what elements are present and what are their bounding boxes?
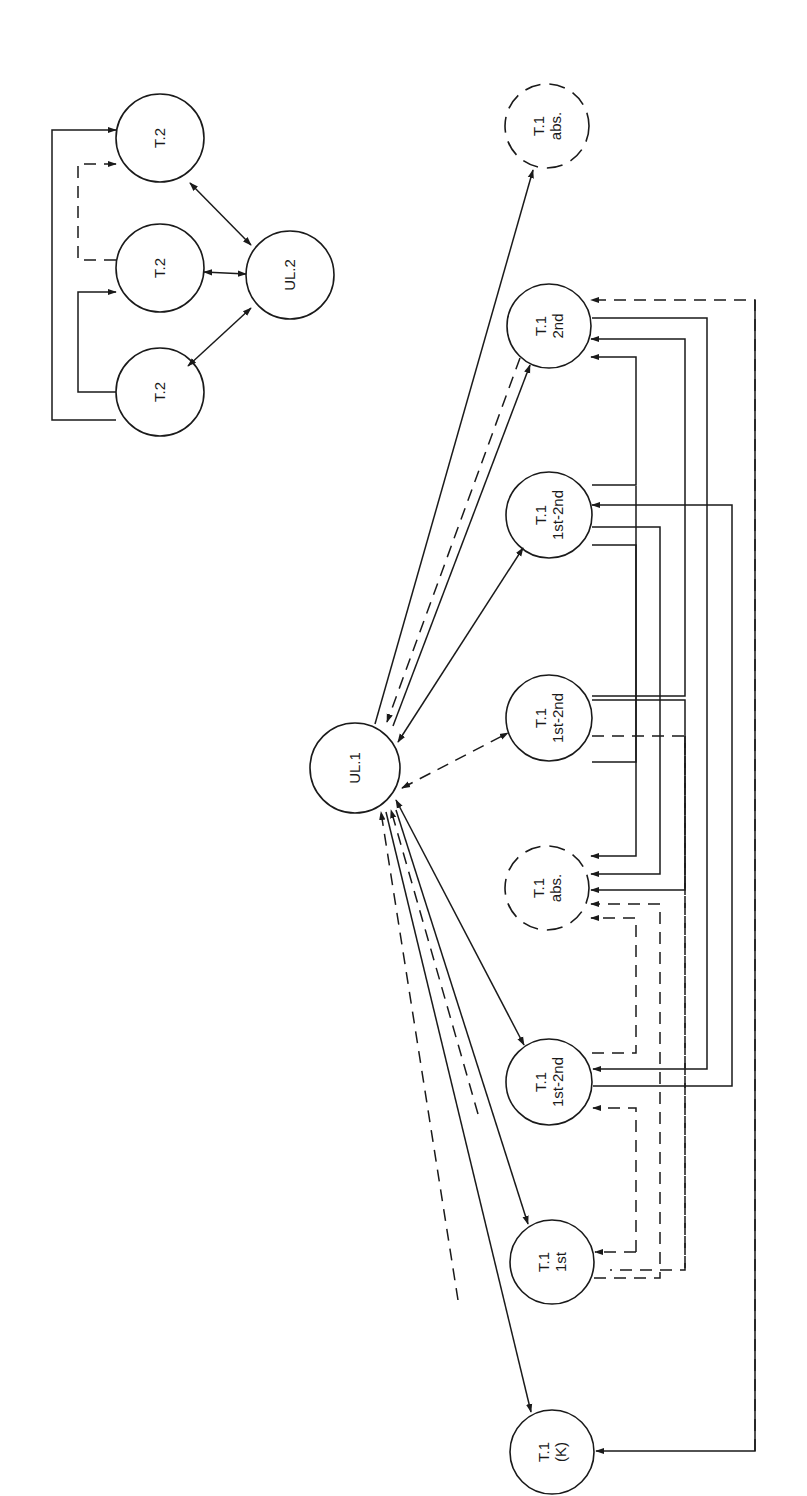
right-bus-connectors — [591, 300, 755, 1451]
node-t2a: T.2 — [116, 94, 204, 182]
edge-t1-12b-to-t1-abs — [591, 700, 685, 890]
edge-ul1-t1-1st — [396, 810, 528, 1224]
node-label: T.1abs. — [530, 874, 564, 902]
network-diagram: T.2T.2T.2UL.2UL.1T.1abs.T.12ndT.11st-2nd… — [0, 0, 807, 1496]
node-t1_k: T.1(K) — [510, 1410, 594, 1494]
node-label-line: T.1 — [535, 1252, 552, 1272]
edge-t1-2nd-to-ul1 — [387, 358, 520, 722]
edge-ul1-t1abs-top — [375, 170, 533, 724]
edge-ul2-t2c — [188, 308, 251, 366]
edge-ul1-t1-12b — [402, 733, 508, 788]
node-t1_12a: T.11st-2nd — [506, 472, 592, 558]
node-label: UL.2 — [281, 259, 298, 291]
edge-t1-2nd-to-t1-12c — [592, 318, 707, 1069]
node-label: T.11st-2nd — [532, 490, 566, 540]
edge-t1-12c-to-t1-12a — [592, 505, 732, 1086]
node-label-line: T.1 — [532, 1072, 549, 1092]
node-label-line: UL.2 — [281, 259, 298, 291]
edge-t1-12b-to-t1-12c — [592, 736, 685, 1270]
node-label-line: T.1 — [532, 505, 549, 525]
edge-t1-1st-to-t1-abs — [591, 904, 660, 1278]
node-label-line: T.2 — [151, 382, 168, 402]
node-t1abs_mid: T.1abs. — [505, 846, 589, 930]
node-label-line: 1st-2nd — [549, 693, 566, 743]
ul1-spokes — [375, 170, 533, 1412]
edge-t2c-to-t2b — [78, 292, 116, 392]
edge-t1-12b-to-t1-2nd — [591, 339, 685, 696]
node-label-line: T.1 — [530, 116, 547, 136]
node-label: T.2 — [151, 258, 168, 278]
node-label-line: T.1 — [532, 708, 549, 728]
node-label: T.11st-2nd — [532, 693, 566, 743]
node-label-line: UL.1 — [346, 752, 363, 784]
node-ul1: UL.1 — [310, 723, 400, 813]
nodes: T.2T.2T.2UL.2UL.1T.1abs.T.12ndT.11st-2nd… — [116, 84, 594, 1494]
node-t2b: T.2 — [116, 224, 204, 312]
edge-ul1-t1-12c — [396, 800, 524, 1045]
node-label-line: 1st-2nd — [549, 490, 566, 540]
edge-ul2-t2b — [204, 272, 246, 274]
node-t1abs_top: T.1abs. — [505, 84, 589, 168]
node-t1_12b: T.11st-2nd — [506, 675, 592, 761]
node-label: T.1abs. — [530, 112, 564, 140]
node-t1_1st: T.11st — [510, 1220, 594, 1304]
node-label: T.2 — [151, 128, 168, 148]
node-label: T.12nd — [532, 313, 566, 338]
node-label: T.1(K) — [535, 1442, 569, 1462]
edge-t1-12c-to-t1-abs — [591, 918, 636, 1053]
node-label-line: T.2 — [151, 258, 168, 278]
edge-t2b-to-t2a — [78, 164, 116, 260]
node-label: T.11st-2nd — [532, 1057, 566, 1107]
node-label-line: T.1 — [530, 878, 547, 898]
node-label: T.11st — [535, 1251, 569, 1272]
node-t2c: T.2 — [116, 348, 204, 436]
node-label-line: (K) — [552, 1442, 569, 1462]
node-label: T.2 — [151, 382, 168, 402]
edge-t1-1st-to-t1-12c — [593, 1108, 636, 1252]
node-ul2: UL.2 — [246, 231, 334, 319]
edge-ul2-t2a — [190, 183, 251, 245]
node-t1_12c: T.11st-2nd — [506, 1039, 592, 1125]
node-label: UL.1 — [346, 752, 363, 784]
node-label-line: 1st — [552, 1251, 569, 1272]
node-label-line: 1st-2nd — [549, 1057, 566, 1107]
node-label-line: T.1 — [535, 1442, 552, 1462]
node-t1_2nd: T.12nd — [507, 284, 591, 368]
edge-ul1-t1k — [386, 812, 531, 1412]
node-label-line: abs. — [547, 112, 564, 140]
edge-t1-12a-to-t1-2nd — [591, 357, 636, 485]
edge-t2c-to-t2a — [52, 130, 116, 420]
node-label-line: abs. — [547, 874, 564, 902]
node-label-line: T.2 — [151, 128, 168, 148]
node-label-line: 2nd — [549, 313, 566, 338]
node-label-line: T.1 — [532, 316, 549, 336]
